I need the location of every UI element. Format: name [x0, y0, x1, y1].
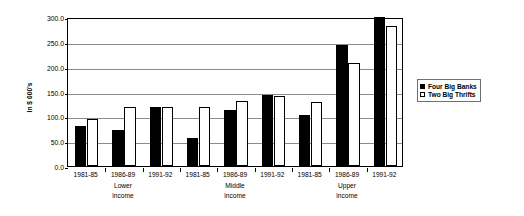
bar-two-big-thrifts	[124, 107, 136, 166]
bar-four-big-banks	[336, 45, 348, 166]
chart-legend: Four Big BanksTwo Big Thrifts	[417, 79, 481, 102]
y-axis-tick-label: 300.0	[47, 15, 64, 22]
x-axis-group-label-line1: Middle	[205, 181, 265, 191]
bar-four-big-banks	[75, 126, 87, 166]
x-axis-group-label-line2: income	[93, 191, 153, 201]
y-axis-tick-label: 50.0	[51, 139, 64, 146]
y-axis-tick-labels: 0.050.0100.0150.0200.0250.0300.0	[34, 0, 64, 216]
bar-chart: In $ 000's 0.050.0100.0150.0200.0250.030…	[0, 0, 524, 216]
x-axis-group-label: Middleincome	[205, 181, 265, 201]
x-axis-group-label-line1: Upper	[317, 181, 377, 191]
x-axis-group-label: Lowerincome	[93, 181, 153, 201]
x-axis-category-label: 1981-85	[74, 171, 98, 178]
x-axis-labels: 1981-851986-891991-921981-851986-891991-…	[67, 171, 403, 216]
legend-item: Two Big Thrifts	[420, 91, 477, 98]
plot-area	[67, 18, 403, 167]
y-axis-title-text: In $ 000's	[26, 82, 33, 112]
bar-four-big-banks	[187, 138, 199, 166]
bar-two-big-thrifts	[236, 101, 248, 166]
bar-four-big-banks	[150, 107, 162, 166]
legend-swatch-outlined-icon	[420, 92, 425, 97]
y-axis-tick-label: 0.0	[55, 164, 64, 171]
x-axis-category-label: 1991-92	[260, 171, 284, 178]
x-axis-group-label: Upperincome	[317, 181, 377, 201]
y-axis-tick-label: 150.0	[47, 89, 64, 96]
legend-item: Four Big Banks	[420, 83, 477, 90]
bar-four-big-banks	[262, 95, 274, 166]
bar-four-big-banks	[374, 17, 386, 166]
x-axis-group-label-line2: income	[317, 191, 377, 201]
bar-two-big-thrifts	[386, 26, 398, 166]
x-axis-category-label: 1986-89	[335, 171, 359, 178]
x-axis-group-label-line2: income	[205, 191, 265, 201]
x-axis-category-label: 1981-85	[298, 171, 322, 178]
y-axis-tick-label: 100.0	[47, 114, 64, 121]
bar-two-big-thrifts	[274, 96, 286, 166]
y-axis-tick-label: 250.0	[47, 39, 64, 46]
bar-two-big-thrifts	[87, 119, 99, 166]
x-axis-group-label-line1: Lower	[93, 181, 153, 191]
x-axis-category-label: 1991-92	[148, 171, 172, 178]
bar-four-big-banks	[224, 110, 236, 166]
x-axis-category-label: 1991-92	[372, 171, 396, 178]
y-axis-tick-label: 200.0	[47, 64, 64, 71]
bar-two-big-thrifts	[348, 63, 360, 166]
bar-two-big-thrifts	[162, 107, 174, 166]
x-axis-category-label: 1986-89	[223, 171, 247, 178]
bar-two-big-thrifts	[311, 102, 323, 166]
legend-item-label: Two Big Thrifts	[428, 91, 476, 98]
bar-series-container	[68, 19, 402, 166]
y-axis-tickmark	[65, 168, 68, 169]
bar-four-big-banks	[299, 115, 311, 166]
x-axis-category-label: 1986-89	[111, 171, 135, 178]
x-axis-category-label: 1981-85	[186, 171, 210, 178]
legend-item-label: Four Big Banks	[428, 83, 477, 90]
bar-four-big-banks	[112, 130, 124, 166]
bar-two-big-thrifts	[199, 107, 211, 166]
legend-swatch-filled-icon	[420, 84, 425, 89]
